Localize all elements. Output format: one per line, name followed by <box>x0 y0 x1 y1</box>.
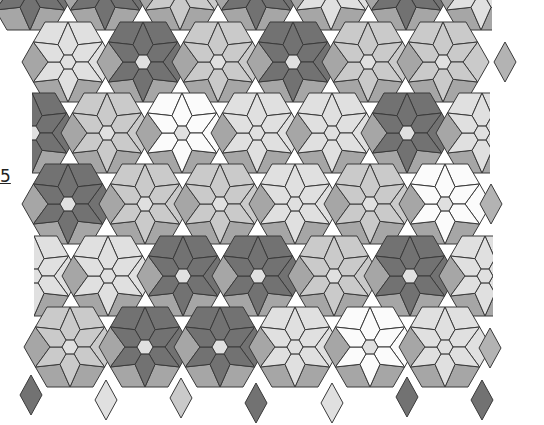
loose-diamond <box>20 375 42 415</box>
center-hexagon <box>24 126 40 140</box>
diamond-tile <box>494 42 516 82</box>
center-hexagon <box>402 269 418 283</box>
diamond-tile <box>170 378 192 418</box>
star-block <box>436 93 528 173</box>
outer-rhombus <box>0 293 34 316</box>
outer-rhombus <box>502 113 528 153</box>
diamond-tile <box>321 383 343 423</box>
star-diamond <box>0 133 28 153</box>
outer-rhombus <box>0 93 32 116</box>
center-hexagon <box>210 55 226 69</box>
loose-diamond <box>170 378 192 418</box>
loose-diamond <box>321 383 343 423</box>
star-diamond <box>486 133 517 153</box>
center-hexagon <box>362 340 378 354</box>
star-diamond <box>0 256 30 276</box>
center-hexagon <box>174 126 190 140</box>
center-hexagon <box>60 55 76 69</box>
star-block <box>397 22 489 102</box>
loose-diamond <box>396 377 418 417</box>
center-hexagon <box>437 340 453 354</box>
center-hexagon <box>60 197 76 211</box>
center-hexagon <box>437 197 453 211</box>
outer-rhombus <box>0 113 12 153</box>
center-hexagon <box>324 126 340 140</box>
center-hexagon <box>135 55 151 69</box>
diamond-tile <box>396 377 418 417</box>
center-hexagon <box>399 126 415 140</box>
diamond-tile <box>20 375 42 415</box>
center-hexagon <box>250 269 266 283</box>
outer-rhombus <box>0 256 14 296</box>
loose-diamond <box>471 380 493 420</box>
center-hexagon <box>360 55 376 69</box>
center-hexagon <box>99 126 115 140</box>
star-diamond <box>486 113 517 133</box>
center-hexagon <box>326 269 342 283</box>
center-hexagon <box>435 55 451 69</box>
diamond-tile <box>245 383 267 423</box>
side-label: 5 <box>0 168 11 185</box>
loose-diamond <box>494 42 516 82</box>
loose-diamond <box>245 383 267 423</box>
outer-rhombus <box>501 0 527 10</box>
star-diamond <box>0 113 28 133</box>
center-hexagon <box>137 197 153 211</box>
center-hexagon <box>474 126 490 140</box>
star-block <box>399 307 491 387</box>
center-hexagon <box>212 197 228 211</box>
diamond-tile <box>95 380 117 420</box>
tessellation-pattern <box>0 0 544 425</box>
star-block <box>399 164 491 244</box>
star-diamond <box>489 256 520 276</box>
star-diamond <box>489 276 520 296</box>
center-hexagon <box>175 269 191 283</box>
center-hexagon <box>62 340 78 354</box>
star-block <box>439 236 531 316</box>
center-hexagon <box>287 340 303 354</box>
center-hexagon <box>477 269 493 283</box>
center-hexagon <box>287 197 303 211</box>
outer-rhombus <box>505 256 531 296</box>
center-hexagon <box>26 269 42 283</box>
diamond-tile <box>471 380 493 420</box>
center-hexagon <box>137 340 153 354</box>
outer-rhombus <box>0 236 34 259</box>
star-diamond <box>0 276 30 296</box>
center-hexagon <box>362 197 378 211</box>
center-hexagon <box>212 340 228 354</box>
center-hexagon <box>285 55 301 69</box>
loose-diamond <box>95 380 117 420</box>
center-hexagon <box>249 126 265 140</box>
center-hexagon <box>100 269 116 283</box>
